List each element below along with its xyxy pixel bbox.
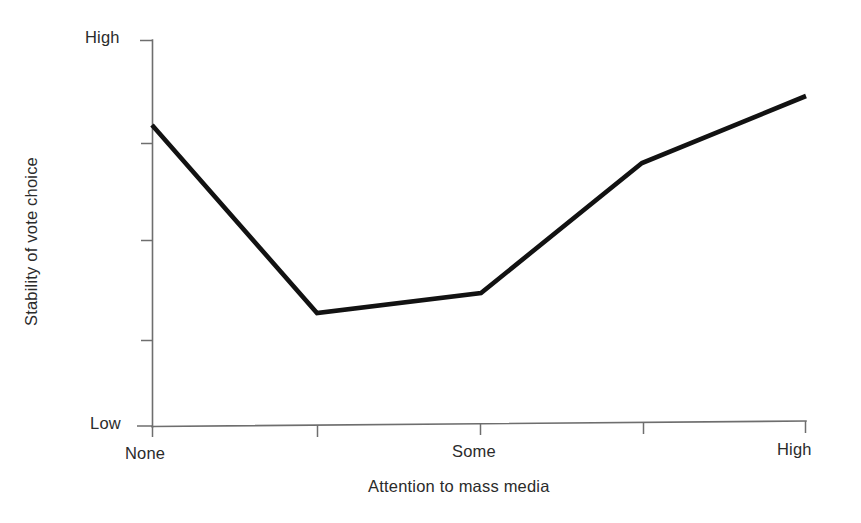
y-axis-tick-label-low: Low bbox=[90, 414, 121, 433]
x-axis-tick-label-none: None bbox=[125, 444, 165, 463]
data-series-line bbox=[152, 96, 806, 313]
y-axis-tick-label-high: High bbox=[85, 28, 120, 47]
y-axis-title: Stability of vote choice bbox=[22, 142, 41, 342]
x-axis-title: Attention to mass media bbox=[368, 477, 550, 496]
x-axis-tick-label-high: High bbox=[777, 440, 812, 459]
x-axis-tick-label-some: Some bbox=[452, 442, 496, 461]
chart-figure: High Low None Some High Attention to mas… bbox=[0, 0, 861, 523]
x-axis-line bbox=[152, 421, 806, 427]
